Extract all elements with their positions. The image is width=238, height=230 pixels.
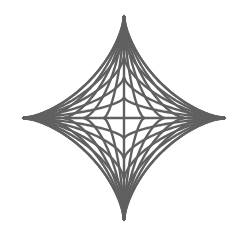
- astroid-figure: [0, 0, 238, 230]
